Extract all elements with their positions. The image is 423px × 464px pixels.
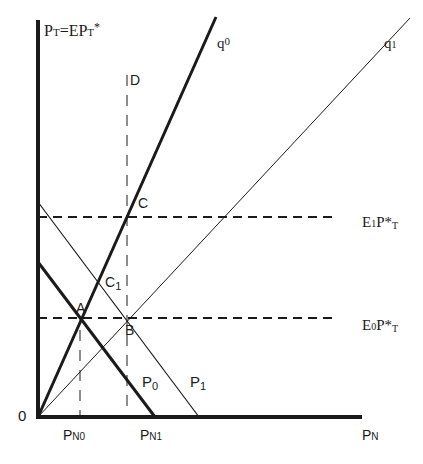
point-b-label: B bbox=[125, 322, 134, 338]
pn1-label: PN1 bbox=[140, 427, 163, 443]
point-a-label: A bbox=[76, 300, 86, 316]
q1-line bbox=[38, 18, 410, 417]
e1-level-label: E1P*T bbox=[362, 214, 398, 231]
diagram-canvas: PT=EPT* q0 q1 E1P*T E0P*T D C C1 A B P0 … bbox=[0, 0, 423, 464]
point-d-label: D bbox=[130, 72, 140, 88]
p0-label: P0 bbox=[142, 373, 158, 392]
p1-label: P1 bbox=[190, 373, 206, 392]
origin-label: 0 bbox=[18, 407, 26, 424]
x-axis-label: PN bbox=[362, 427, 379, 443]
point-c-label: C bbox=[138, 195, 148, 211]
y-axis-label: PT=EPT* bbox=[44, 20, 100, 39]
q1-label: q1 bbox=[384, 35, 397, 51]
point-c1-label: C1 bbox=[105, 274, 121, 292]
e0-level-label: E0P*T bbox=[362, 317, 398, 334]
q0-label: q0 bbox=[217, 35, 231, 51]
pn0-label: PN0 bbox=[63, 427, 86, 443]
